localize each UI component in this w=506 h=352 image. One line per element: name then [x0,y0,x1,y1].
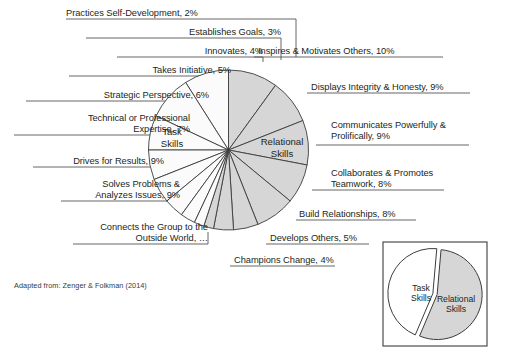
label-practices-self-development: Practices Self-Development, 2% [66,8,296,19]
label-takes-initiative: Takes Initiative, 5% [66,65,231,76]
label-solves-problems: Solves Problems & Analyzes Issues, 9% [58,179,180,201]
label-develops-others: Develops Others, 5% [270,233,410,244]
label-inspires-motivates: Inspires & Motivates Others, 10% [258,46,458,57]
label-establishes-goals: Establishes Goals, 3% [81,27,281,38]
label-drives-for-results: Drives for Results, 9% [30,156,164,167]
label-strategic-perspective: Strategic Perspective, 6% [24,90,209,101]
label-connects-group: Connects the Group to the Outside World,… [70,222,208,244]
inset-label-relational-skills: Relational Skills [427,294,485,314]
label-communicates-powerfully: Communicates Powerfully & Prolifically, … [331,120,501,142]
label-collaborates-teamwork: Collaborates & Promotes Teamwork, 8% [331,168,496,190]
pie-group-label-relational-skills: Relational Skills [249,136,315,159]
figure-canvas: Practices Self-Development, 2% Establish… [0,0,506,352]
leader-line-innovates [117,57,263,62]
label-displays-integrity: Displays Integrity & Honesty, 9% [311,82,501,93]
source-footnote: Adapted from: Zenger & Folkman (2014) [14,281,147,290]
label-champions-change: Champions Change, 4% [234,255,374,266]
label-build-relationships: Build Relationships, 8% [299,209,459,220]
label-innovates: Innovates, 4% [113,46,263,57]
pie-group-label-task-skills: Task Skills [146,126,198,149]
